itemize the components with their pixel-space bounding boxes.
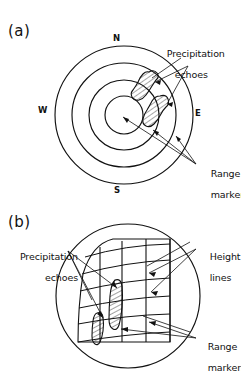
leader-range-a [123, 117, 196, 164]
precipitation-echo-lower [143, 95, 169, 126]
leader-height-b [147, 242, 196, 292]
compass-west: W [38, 105, 47, 115]
label-range-markers-b-line1: Range [208, 341, 238, 352]
label-height-lines-b-line1: Height [210, 251, 241, 262]
label-precipitation-echoes-a: Precipitation echoes [155, 38, 225, 91]
precipitation-echo-b-left [92, 313, 104, 345]
rhi-sector-outline [78, 239, 170, 342]
height-line-3 [80, 278, 170, 291]
label-range-markers-b: Range markers [196, 331, 241, 384]
compass-north: N [113, 33, 120, 43]
figure-canvas: (a) [0, 0, 241, 391]
range-ring-1 [105, 96, 143, 134]
leader-arrowheads-height-b [149, 272, 158, 296]
compass-south: S [114, 185, 120, 195]
label-height-lines-b: Height lines [198, 241, 241, 294]
height-line-5 [78, 314, 170, 324]
compass-east: E [195, 108, 201, 118]
label-precipitation-echoes-a-line1: Precipitation [167, 48, 225, 59]
label-precipitation-echoes-b-line2: echoes [45, 272, 78, 283]
label-range-markers-a-line1: Range [211, 168, 241, 179]
height-line-1 [85, 244, 170, 257]
label-height-lines-b-line2: lines [210, 272, 232, 283]
leader-arrowheads-range-b [121, 321, 156, 332]
label-precipitation-echoes-a-line2: echoes [175, 70, 208, 81]
label-precipitation-echoes-b-line1: Precipitation [20, 251, 78, 262]
label-range-markers-b-line2: markers [208, 362, 241, 373]
label-precipitation-echoes-b: Precipitation echoes [2, 241, 78, 294]
